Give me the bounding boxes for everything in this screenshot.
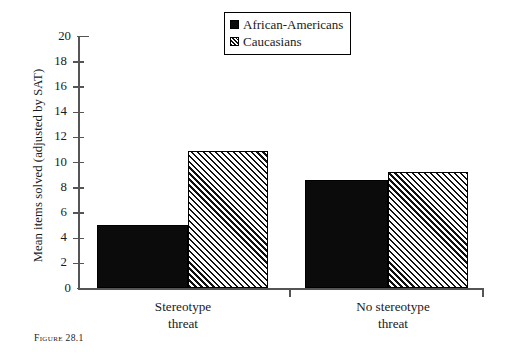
y-tick-label-12: 12 (45, 128, 67, 144)
figure-caption: Figure 28.1 (34, 332, 84, 343)
y-tick-label-16: 16 (45, 78, 67, 94)
y-tick-16: 16 (73, 86, 84, 87)
figure-caption-prefix: Figure (34, 332, 63, 343)
y-tick-label-14: 14 (45, 103, 67, 119)
figure-28-1: Mean items solved (adjusted by SAT) Afri… (0, 0, 517, 354)
y-tick-4: 4 (73, 238, 84, 239)
y-tick-12: 12 (73, 137, 84, 138)
y-tick-label-8: 8 (45, 179, 67, 195)
bar-african-americans-stereotype-threat (97, 225, 188, 288)
y-tick-label-2: 2 (45, 254, 67, 270)
x-tick-group-divider (289, 288, 291, 297)
bar-caucasians-no-stereotype-threat (388, 172, 468, 288)
y-tick-label-20: 20 (49, 28, 71, 44)
y-tick-8: 8 (73, 187, 84, 188)
y-tick-label-0: 0 (49, 280, 71, 296)
y-tick-6: 6 (73, 212, 84, 213)
y-tick-label-10: 10 (45, 154, 67, 170)
y-tick-2: 2 (73, 263, 84, 264)
y-tick-label-18: 18 (45, 53, 67, 69)
y-tick-20: 20 (77, 36, 89, 37)
x-axis-label-stereotype-threat: Stereotype threat (88, 298, 278, 332)
y-tick-14: 14 (73, 112, 84, 113)
solid-black-square-icon (230, 20, 239, 29)
y-tick-10: 10 (73, 162, 84, 163)
legend-item-african-americans: African-Americans (230, 16, 343, 33)
y-tick-label-4: 4 (45, 229, 67, 245)
y-tick-18: 18 (73, 61, 84, 62)
bar-caucasians-stereotype-threat (188, 151, 268, 288)
bar-african-americans-no-stereotype-threat (305, 180, 388, 288)
y-axis-title: Mean items solved (adjusted by SAT) (31, 36, 46, 296)
x-axis-line (78, 288, 484, 290)
plot-area: 20 18 16 14 12 10 8 6 4 2 0 (78, 36, 484, 290)
y-tick-0: 0 (77, 288, 89, 289)
x-axis-label-no-stereotype-threat: No stereotype threat (298, 298, 488, 332)
legend-label-african-americans: African-Americans (243, 17, 343, 32)
figure-caption-number: 28.1 (66, 332, 84, 343)
x-tick-right-end (482, 288, 484, 297)
y-tick-label-6: 6 (45, 204, 67, 220)
